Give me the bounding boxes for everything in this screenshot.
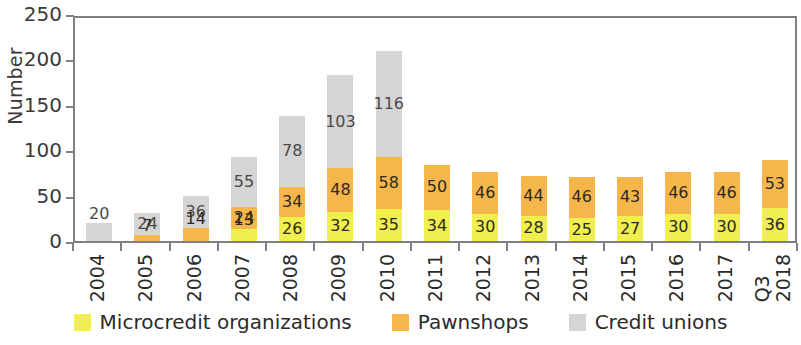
x-axis-label-line: 2005 — [136, 254, 155, 302]
x-axis-label-line: 2018 — [774, 254, 793, 302]
bar-segment[interactable]: 27 — [617, 216, 643, 241]
bar-segment[interactable]: 26 — [279, 217, 305, 241]
bar-segment[interactable]: 46 — [665, 172, 691, 214]
bar-segment[interactable]: 30 — [714, 214, 740, 241]
x-axis-label: 2017 — [715, 254, 734, 302]
bar-value-label: 26 — [282, 221, 302, 237]
x-axis-label-line: 2014 — [570, 254, 589, 302]
x-axis-label: 2010 — [377, 254, 396, 302]
bar-segment[interactable]: 13 — [231, 229, 257, 241]
bar-segment[interactable]: 7 — [134, 235, 160, 241]
x-axis-label: 2008 — [281, 254, 300, 302]
bar-value-label: 46 — [475, 185, 495, 201]
bar-group[interactable]: 4625 — [569, 177, 595, 241]
legend-label: Microcredit organizations — [100, 310, 352, 334]
y-tick-label: 0 — [0, 229, 62, 253]
bar-group[interactable]: 4630 — [665, 172, 691, 241]
y-tick-label: 100 — [0, 138, 62, 162]
bar-value-label: 34 — [282, 194, 302, 210]
x-axis-label-line: 2009 — [329, 254, 348, 302]
bar-value-label: 55 — [234, 174, 254, 190]
bar-group[interactable]: 4630 — [714, 172, 740, 241]
bar-segment[interactable]: 35 — [376, 209, 402, 241]
legend-label: Pawnshops — [418, 310, 529, 334]
y-axis-title: Number — [4, 26, 26, 146]
x-tick-mark — [410, 243, 412, 251]
x-axis-label: 2012 — [474, 254, 493, 302]
bar-segment[interactable]: 20 — [86, 223, 112, 241]
x-axis-label-line: 2007 — [232, 254, 251, 302]
bar-value-label: 20 — [89, 206, 109, 222]
bar-group[interactable]: 552413 — [231, 157, 257, 241]
bar-value-label: 46 — [668, 185, 688, 201]
bar-group[interactable]: 5336 — [762, 160, 788, 241]
x-axis-label: 2006 — [184, 254, 203, 302]
bar-group[interactable]: 20 — [86, 223, 112, 241]
bar-value-label: 14 — [185, 211, 205, 227]
x-tick-mark — [458, 243, 460, 251]
x-axis-label: 2005 — [136, 254, 155, 302]
x-tick-mark — [555, 243, 557, 251]
bar-value-label: 34 — [427, 218, 447, 234]
bar-value-label: 116 — [373, 96, 404, 112]
bar-value-label: 30 — [716, 219, 736, 235]
x-axis-label-line: 2017 — [715, 254, 734, 302]
x-tick-mark — [362, 243, 364, 251]
bar-segment[interactable]: 48 — [327, 168, 353, 212]
bar-segment[interactable]: 58 — [376, 157, 402, 210]
bar-segment[interactable]: 14 — [183, 228, 209, 241]
bar-segment[interactable]: 28 — [521, 216, 547, 241]
x-tick-mark — [169, 243, 171, 251]
bar-group[interactable]: 1165835 — [376, 51, 402, 241]
bar-segment[interactable]: 116 — [376, 51, 402, 156]
bar-value-label: 46 — [716, 185, 736, 201]
bar-segment[interactable]: 32 — [327, 212, 353, 241]
bar-group[interactable]: 4428 — [521, 176, 547, 241]
bar-segment[interactable]: 55 — [231, 157, 257, 207]
x-axis-label-line: 2012 — [474, 254, 493, 302]
bar-group[interactable]: 783426 — [279, 116, 305, 241]
x-tick-mark — [217, 243, 219, 251]
legend-item[interactable]: Microcredit organizations — [74, 310, 352, 334]
bar-segment[interactable]: 30 — [472, 214, 498, 241]
bar-value-label: 25 — [572, 222, 592, 238]
bar-segment[interactable]: 43 — [617, 177, 643, 216]
bar-segment[interactable]: 103 — [327, 75, 353, 169]
bar-value-label: 44 — [523, 188, 543, 204]
bar-value-label: 53 — [765, 176, 785, 192]
bar-segment[interactable]: 36 — [762, 208, 788, 241]
x-tick-mark — [72, 243, 74, 251]
bar-segment[interactable]: 34 — [424, 210, 450, 241]
x-tick-mark — [748, 243, 750, 251]
x-axis-label-line: 2008 — [281, 254, 300, 302]
legend-item[interactable]: Credit unions — [569, 310, 728, 334]
bar-group[interactable]: 247 — [134, 213, 160, 241]
bar-segment[interactable]: 44 — [521, 176, 547, 216]
bar-segment[interactable]: 34 — [279, 187, 305, 218]
x-axis-label-line: 2010 — [377, 254, 396, 302]
legend-item[interactable]: Pawnshops — [392, 310, 529, 334]
bar-value-label: 103 — [325, 114, 356, 130]
bar-segment[interactable]: 78 — [279, 116, 305, 187]
bar-segment[interactable]: 46 — [569, 177, 595, 219]
bar-segment[interactable]: 30 — [665, 214, 691, 241]
plot-area: 2024736145524137834261034832116583550344… — [73, 16, 797, 243]
x-tick-mark — [506, 243, 508, 251]
bar-segment[interactable]: 46 — [714, 172, 740, 214]
bar-group[interactable]: 4327 — [617, 177, 643, 241]
bar-group[interactable]: 4630 — [472, 172, 498, 241]
bar-group[interactable]: 1034832 — [327, 75, 353, 241]
x-axis-label: 2016 — [667, 254, 686, 302]
bar-group[interactable]: 5034 — [424, 165, 450, 241]
x-tick-mark — [603, 243, 605, 251]
bar-segment[interactable]: 50 — [424, 165, 450, 210]
bar-segment[interactable]: 25 — [569, 218, 595, 241]
legend-label: Credit unions — [595, 310, 728, 334]
bar-segment[interactable]: 46 — [472, 172, 498, 214]
bar-value-label: 43 — [620, 189, 640, 205]
bar-segment[interactable]: 53 — [762, 160, 788, 208]
bar-group[interactable]: 3614 — [183, 196, 209, 241]
legend-swatch — [569, 314, 586, 331]
x-axis-label-line: 2004 — [88, 254, 107, 302]
x-tick-mark — [651, 243, 653, 251]
